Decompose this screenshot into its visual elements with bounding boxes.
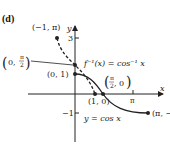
label-pi-neg1: (π, −1): [152, 109, 170, 118]
label-0-1: (0, 1): [47, 70, 69, 79]
svg-text:(: (: [104, 74, 109, 90]
label-0-pi2: ( 0, π 2 ): [2, 53, 30, 71]
y-tick-3-label: 3: [68, 34, 73, 43]
point-pi-neg1: [146, 111, 150, 115]
point-neg1-pi: [55, 36, 59, 40]
cos-label: y = cos x: [83, 114, 121, 123]
x-axis-label: x: [160, 84, 165, 93]
x-tick-pi-label: π: [130, 97, 135, 105]
leader-0-pi2: [31, 61, 73, 65]
svg-text:0,: 0,: [8, 58, 16, 67]
svg-text:(: (: [2, 55, 7, 71]
svg-text:π: π: [20, 53, 24, 60]
point-0-1: [73, 72, 77, 76]
label-pi2-0: ( π 2 , 0 ): [104, 74, 131, 90]
panel-label: (d): [2, 13, 14, 25]
y-axis-label: y: [66, 24, 72, 33]
label-neg1-pi: (−1, π): [32, 23, 60, 32]
svg-text:2: 2: [20, 61, 24, 68]
arccos-label: f⁻¹(x) = cos⁻¹ x: [83, 59, 145, 68]
svg-text:): ): [25, 55, 30, 71]
point-0-pi2: [73, 63, 77, 67]
label-1-0: (1, 0): [88, 97, 110, 106]
point-1-0: [93, 92, 97, 96]
y-tick-neg1-label: −1: [62, 109, 74, 118]
point-pi2-0: [101, 92, 105, 96]
svg-text:): ): [126, 74, 131, 90]
axes: x y 3 −1 π: [28, 24, 165, 142]
svg-text:, 0: , 0: [114, 79, 124, 88]
inverse-cosine-diagram: (d) x y 3 −1 π (−1, π) ( 0, π 2 ) (0, 1): [0, 0, 170, 148]
